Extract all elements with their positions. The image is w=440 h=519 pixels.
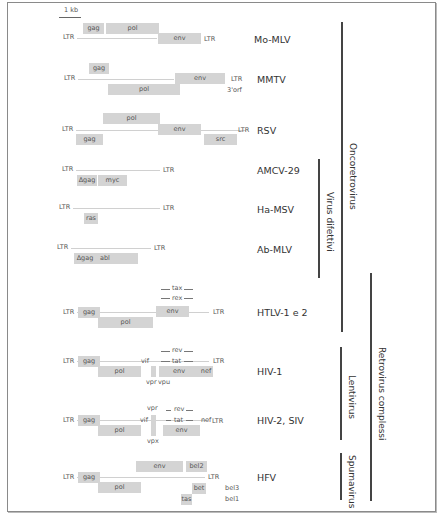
gene-vpx: vpx xyxy=(147,437,159,446)
ltr-3: LTR xyxy=(212,417,223,426)
gene-vpu: vpu xyxy=(158,378,170,387)
ltr-5: LTR xyxy=(63,308,74,317)
gene-nef: nef xyxy=(199,366,213,377)
gene-tat: tat xyxy=(172,357,181,366)
ltr-5: LTR xyxy=(63,33,74,42)
virus-name: Mo-MLV xyxy=(254,34,291,45)
gene-env: env xyxy=(163,425,200,436)
ltr-5: LTR xyxy=(62,165,73,174)
gene-abl: abl xyxy=(96,253,138,264)
tat-exon-dash xyxy=(161,361,170,362)
gene-pol: pol xyxy=(98,425,141,436)
gene-env: env xyxy=(158,124,201,135)
group-label-oncoretrovirus: Oncoretrovirus xyxy=(348,143,358,210)
ltr-3: LTR xyxy=(213,357,224,366)
tat-exon-dash xyxy=(166,420,171,421)
gene-env: env xyxy=(158,33,201,44)
gene-bel1: bel1 xyxy=(225,495,239,504)
gene-pol: pol xyxy=(98,317,153,328)
gene-delta-gag: Δgag xyxy=(74,253,96,264)
gene-myc: myc xyxy=(98,175,127,186)
virus-name: HFV xyxy=(257,472,276,483)
rex-exon-dash xyxy=(184,298,193,299)
virus-name: HTLV-1 e 2 xyxy=(257,307,308,318)
gene-ras: ras xyxy=(84,213,98,224)
ltr-3: LTR xyxy=(163,204,174,213)
virus-name: HIV-2, SIV xyxy=(257,415,304,426)
ltr-5: LTR xyxy=(62,125,73,134)
group-label-virus-difettivi: Virus difettivi xyxy=(325,192,335,252)
gene-nef: nef xyxy=(201,416,211,425)
gene-env: env xyxy=(136,461,183,472)
genome-line xyxy=(73,208,160,209)
gene-pol: pol xyxy=(103,113,160,124)
ltr-5: LTR xyxy=(63,357,74,366)
bracket-spumavirus xyxy=(340,453,342,500)
ltr-3: LTR xyxy=(213,308,224,317)
gene-vpr-vpx-box xyxy=(151,415,156,436)
group-label-spumavirus: Spumavirus xyxy=(347,455,357,508)
gene-gag: gag xyxy=(78,415,100,426)
tat-exon-dash xyxy=(186,420,193,421)
gene-vif: vif xyxy=(141,357,149,366)
scale-label: 1 kb xyxy=(64,6,78,15)
rev-exon-dash xyxy=(166,410,171,411)
ltr-3: LTR xyxy=(163,166,174,175)
bracket-retrovirus-complessi xyxy=(370,273,372,501)
ltr-3: LTR xyxy=(208,473,219,482)
genome-line xyxy=(71,248,151,249)
gene-pol: pol xyxy=(106,23,159,34)
virus-name: Ha-MSV xyxy=(257,204,294,215)
gene-3orf: 3'orf xyxy=(227,86,242,95)
gene-gag: gag xyxy=(76,134,103,145)
ltr-5: LTR xyxy=(63,473,74,482)
gene-vpr: vpr xyxy=(147,404,158,413)
gene-gag: gag xyxy=(78,307,100,318)
gene-vpr-box xyxy=(151,366,156,377)
rev-exon-dash xyxy=(161,351,170,352)
gene-env: env xyxy=(175,73,225,84)
gene-gag: gag xyxy=(78,472,100,483)
ltr-3: LTR xyxy=(231,75,242,84)
genome-line xyxy=(78,79,174,80)
ltr-5: LTR xyxy=(59,203,70,212)
rev-exon-dash xyxy=(186,410,193,411)
ltr-3: LTR xyxy=(154,244,165,253)
bracket-oncoretrovirus xyxy=(341,22,343,332)
gene-delta-gag: Δgag xyxy=(77,175,97,186)
gene-gag: gag xyxy=(78,356,100,367)
gene-gag: gag xyxy=(89,63,109,74)
bracket-lentivirus xyxy=(340,347,342,440)
tax-exon-dash xyxy=(184,289,193,290)
virus-name: HIV-1 xyxy=(257,366,282,377)
virus-name: MMTV xyxy=(257,74,286,85)
ltr-3: LTR xyxy=(204,35,215,44)
genome-line xyxy=(77,38,157,39)
virus-name: RSV xyxy=(257,125,276,136)
genome-line xyxy=(76,170,160,171)
gene-pol: pol xyxy=(98,366,141,377)
bracket-virus-difettivi xyxy=(318,159,320,278)
gene-rev: rev xyxy=(174,405,184,414)
gene-tax: tax xyxy=(172,284,182,293)
gene-tat: tat xyxy=(174,416,183,425)
gene-rev: rev xyxy=(172,346,182,355)
virus-name: AMCV-29 xyxy=(257,165,300,176)
gene-bel3: bel3 xyxy=(225,484,239,493)
rex-exon-dash xyxy=(161,298,170,299)
group-label-lentivirus: Lentivirus xyxy=(347,375,357,419)
virus-name: Ab-MLV xyxy=(257,244,292,255)
ltr-3: LTR xyxy=(238,126,249,135)
gene-bel2: bel2 xyxy=(186,461,207,472)
scale-bar xyxy=(59,17,81,18)
gene-pol: pol xyxy=(108,84,180,95)
group-label-retrovirus-complessi: Retrovirus complessi xyxy=(377,347,387,441)
gene-vif: vif xyxy=(140,416,148,425)
rev-exon-dash xyxy=(184,351,193,352)
gene-env: env xyxy=(159,366,199,377)
gene-bet: bet xyxy=(192,483,206,494)
gene-gag: gag xyxy=(83,23,104,34)
tax-exon-dash xyxy=(161,289,170,290)
gene-rex: rex xyxy=(172,294,182,303)
ltr-5: LTR xyxy=(57,243,68,252)
